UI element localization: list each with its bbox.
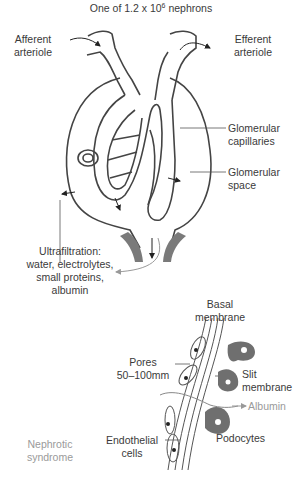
label-line: Endothelial: [100, 434, 164, 447]
label-glomerular-space: Glomerular space: [228, 166, 280, 192]
efferent-arteriole: [155, 31, 196, 100]
label-line: Pores: [112, 356, 174, 369]
label-line: water, electrolytes,: [20, 258, 120, 271]
label-pores: Pores 50–100mm: [112, 356, 174, 382]
label-line: cells: [100, 447, 164, 460]
label-line: space: [228, 179, 280, 192]
label-nephrotic-syndrome: Nephrotic syndrome: [20, 438, 80, 464]
label-glomerular-capillaries: Glomerular capillaries: [228, 122, 280, 148]
label-line: small proteins,: [20, 271, 120, 284]
label-line: arteriole: [228, 46, 278, 59]
label-endothelial-cells: Endothelial cells: [100, 434, 164, 460]
label-line: Nephrotic: [20, 438, 80, 451]
label-ultrafiltration: Ultrafiltration: water, electrolytes, sm…: [20, 245, 120, 297]
label-line: Afferent: [8, 33, 58, 46]
label-podocytes: Podocytes: [216, 432, 265, 445]
label-line: Efferent: [228, 33, 278, 46]
label-slit-membrane: Slit membrane: [242, 368, 292, 394]
label-line: albumin: [20, 284, 120, 297]
label-line: arteriole: [8, 46, 58, 59]
label-line: Basal: [190, 298, 250, 311]
label-albumin: Albumin: [248, 400, 286, 413]
label-line: Glomerular: [228, 166, 280, 179]
label-afferent-arteriole: Afferent arteriole: [8, 33, 58, 59]
label-efferent-arteriole: Efferent arteriole: [228, 33, 278, 59]
label-line: 50–100mm: [112, 369, 174, 382]
label-line: Ultrafiltration:: [20, 245, 120, 258]
label-line: membrane: [190, 311, 250, 324]
label-line: membrane: [242, 381, 292, 394]
tubule-wall-right: [163, 232, 186, 262]
afferent-arteriole: [87, 31, 140, 95]
label-line: capillaries: [228, 135, 280, 148]
label-line: Glomerular: [228, 122, 280, 135]
label-line: Slit: [242, 368, 292, 381]
label-line: syndrome: [20, 451, 80, 464]
label-basal-membrane: Basal membrane: [190, 298, 250, 324]
